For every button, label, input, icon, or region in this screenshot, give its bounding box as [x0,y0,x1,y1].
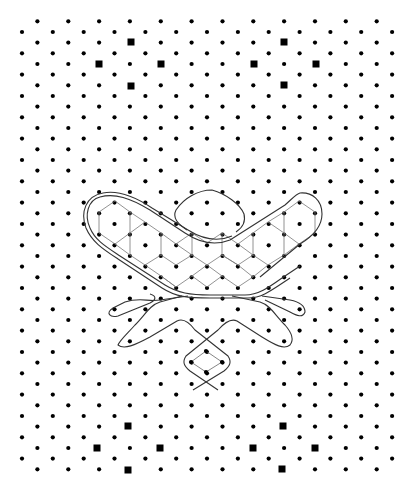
grid-dot [35,275,39,279]
grid-dot [159,318,163,322]
square-marker [125,423,132,430]
grid-dot [66,425,70,429]
grid-dot [174,179,178,183]
grid-dot [359,371,363,375]
lattice-edge [176,233,192,244]
grid-dot [66,467,70,471]
lattice-edge [130,222,145,233]
grid-dot [313,339,317,343]
grid-dot [205,457,209,461]
grid-dot [20,222,24,226]
grid-dot [112,286,116,290]
grid-dot [159,382,163,386]
grid-dot [298,51,302,55]
grid-dot [344,467,348,471]
grid-dot [20,115,24,119]
square-marker [157,445,164,452]
grid-dot [20,158,24,162]
grid-dot [236,222,240,226]
grid-dot [97,425,101,429]
grid-dot [328,329,332,333]
grid-dot [205,179,209,183]
grid-dot [375,62,379,66]
lattice-edge [145,222,161,233]
grid-dot [236,371,240,375]
grid-dot [375,339,379,343]
grid-dot [35,105,39,109]
grid-dot [375,233,379,237]
grid-dot [359,286,363,290]
grid-dot [35,233,39,237]
grid-dot [267,51,271,55]
grid-dot [267,94,271,98]
grid-dot [251,318,255,322]
grid-dot [328,222,332,226]
grid-dot [112,265,116,269]
grid-dot [375,382,379,386]
grid-dot [159,339,163,343]
grid-dot [82,243,86,247]
grid-dot [236,158,240,162]
grid-dot [328,350,332,354]
grid-dot [35,41,39,45]
grid-dot [66,126,70,130]
grid-dot [390,265,394,269]
grid-dot [328,30,332,34]
lattice-edge [222,276,238,287]
grid-dot [82,30,86,34]
lattice-edge [253,255,268,265]
grid-dot [375,126,379,130]
lattice-edge [176,276,192,287]
grid-dot [236,51,240,55]
grid-dot [298,350,302,354]
grid-dot [344,211,348,215]
grid-dot [205,414,209,418]
grid-dot [174,115,178,119]
grid-dot [375,169,379,173]
grid-dot [35,169,39,173]
grid-dot [51,265,55,269]
grid-dot [112,435,116,439]
grid-dot [251,83,255,87]
grid-dot [282,318,286,322]
grid-dot [390,350,394,354]
grid-dot [159,467,163,471]
grid-dot [282,62,286,66]
grid-dot [236,137,240,141]
grid-dot [313,254,317,258]
grid-dot [97,105,101,109]
grid-dot [35,254,39,258]
grid-dot [66,190,70,194]
grid-dot [20,137,24,141]
grid-dot [159,19,163,23]
grid-dot [82,201,86,205]
grid-dot [220,62,224,66]
grid-dot [112,94,116,98]
grid-dot [375,403,379,407]
grid-dot [282,19,286,23]
grid-dot [298,30,302,34]
grid-dot [267,457,271,461]
grid-dot [328,243,332,247]
grid-dot [313,318,317,322]
grid-dot [128,19,132,23]
grid-dot [344,339,348,343]
grid-dot [251,147,255,151]
grid-dot [51,158,55,162]
grid-dot [313,467,317,471]
square-marker [96,61,103,68]
grid-dot [35,361,39,365]
grid-dot [190,425,194,429]
grid-dot [344,275,348,279]
grid-dot [112,137,116,141]
grid-dot [97,83,101,87]
grid-dot [174,201,178,205]
grid-dot [298,137,302,141]
grid-dot [390,286,394,290]
grid-dot [143,435,147,439]
lattice-edge [238,255,253,265]
grid-dot [313,275,317,279]
grid-dot [82,115,86,119]
grid-dot [51,73,55,77]
grid-dot [267,115,271,119]
